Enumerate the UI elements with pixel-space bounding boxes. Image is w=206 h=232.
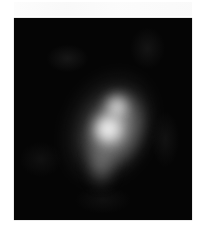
faint-caption [14, 2, 192, 16]
intensity-image-panel [14, 18, 192, 220]
blob-tail-glow [86, 143, 116, 188]
blob-core-lower [94, 113, 122, 145]
